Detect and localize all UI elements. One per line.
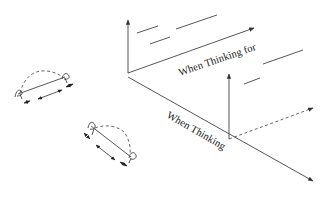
front-short-line-2 xyxy=(263,50,303,64)
front-dashed-axis xyxy=(229,108,313,139)
left-dipole-figure-2 xyxy=(84,122,136,166)
dipole-2-arrow-b xyxy=(96,145,115,160)
left-dipole-figure-1 xyxy=(15,71,73,103)
back-axis-label: When Thinking for xyxy=(177,41,258,78)
back-short-line-3 xyxy=(176,15,217,29)
dipole-1-arrow-c xyxy=(66,84,73,87)
dipole-1-arrow-a xyxy=(24,101,30,103)
dipole-2-arrow-a xyxy=(84,133,90,139)
back-short-line-1 xyxy=(137,26,158,33)
back-axes-group: When Thinking for xyxy=(128,15,258,78)
back-short-line-2 xyxy=(150,37,170,44)
diagram-canvas: When Thinking for When Thinking xyxy=(0,0,323,201)
dipole-2-arrow-c xyxy=(120,162,127,166)
dipole-1-arrow-b xyxy=(38,90,62,99)
front-axes-group: When Thinking xyxy=(128,50,313,181)
front-short-line-1 xyxy=(244,78,260,84)
front-diagonal-axis xyxy=(128,77,313,181)
